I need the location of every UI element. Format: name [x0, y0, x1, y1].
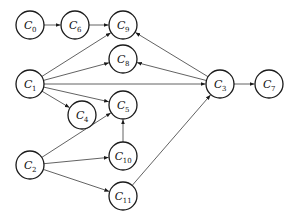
node-c9: C9 — [109, 11, 137, 39]
node-label-subscript: 2 — [32, 166, 36, 174]
node-label-subscript: 9 — [125, 26, 129, 34]
node-c6: C6 — [61, 11, 89, 39]
node-label-subscript: 6 — [77, 26, 82, 34]
edge-c11-to-c3 — [132, 95, 210, 185]
node-label-subscript: 3 — [222, 85, 226, 93]
node-c0: C0 — [16, 11, 44, 39]
node-label-subscript: 1 — [32, 85, 36, 93]
node-label-subscript: 10 — [123, 157, 132, 165]
edge-c1-to-c4 — [42, 91, 70, 107]
node-label-subscript: 4 — [84, 116, 89, 124]
edge-c2-to-c11 — [43, 169, 109, 191]
edge-c3-to-c8 — [137, 63, 206, 81]
dependency-graph: C0C6C9C8C1C4C5C2C10C11C3C7 — [0, 0, 298, 223]
node-c10: C10 — [109, 142, 137, 170]
node-label-subscript: 0 — [32, 26, 36, 34]
node-c1: C1 — [16, 70, 44, 98]
edge-c1-to-c5 — [44, 87, 109, 102]
node-c8: C8 — [109, 45, 137, 73]
node-c7: C7 — [255, 70, 283, 98]
node-label-subscript: 7 — [271, 85, 275, 93]
node-c11: C11 — [109, 182, 137, 210]
edge-c1-to-c8 — [44, 63, 110, 81]
edge-c2-to-c10 — [44, 157, 109, 163]
node-label-subscript: 5 — [125, 106, 129, 114]
node-c3: C3 — [206, 70, 234, 98]
node-c2: C2 — [16, 151, 44, 179]
node-c4: C4 — [68, 101, 96, 129]
node-label-subscript: 11 — [123, 197, 132, 205]
node-label-subscript: 8 — [125, 60, 129, 68]
node-c5: C5 — [109, 91, 137, 119]
edge-c3-to-c9 — [135, 33, 208, 77]
